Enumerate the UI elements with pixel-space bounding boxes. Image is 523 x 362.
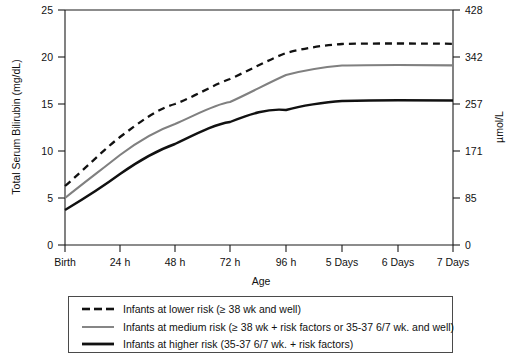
y2-tick-label-171: 171 bbox=[465, 145, 483, 157]
y-axis-right-ticks bbox=[453, 10, 460, 245]
x-tick-label-48h: 48 h bbox=[165, 256, 186, 268]
y2-tick-label-257: 257 bbox=[465, 98, 483, 110]
y-axis-left-ticks bbox=[58, 10, 65, 245]
x-tick-label-5days: 5 Days bbox=[326, 256, 359, 268]
x-tick-label-birth: Birth bbox=[54, 256, 76, 268]
x-axis-title: Age bbox=[252, 275, 271, 287]
series-group bbox=[65, 44, 453, 211]
y-tick-label-0: 0 bbox=[47, 239, 53, 251]
y-axis-left-labels: 25 20 15 10 5 0 bbox=[41, 4, 53, 251]
x-tick-label-72h: 72 h bbox=[220, 256, 241, 268]
y-axis-right-labels: 428 342 257 171 85 0 bbox=[465, 4, 483, 251]
bilirubin-nomogram-figure: 25 20 15 10 5 0 428 342 257 171 85 0 bbox=[0, 0, 523, 362]
plot-frame bbox=[65, 10, 453, 245]
x-tick-label-24h: 24 h bbox=[110, 256, 131, 268]
y2-tick-label-342: 342 bbox=[465, 51, 483, 63]
y-tick-label-10: 10 bbox=[41, 145, 53, 157]
y2-tick-label-428: 428 bbox=[465, 4, 483, 16]
y-tick-label-25: 25 bbox=[41, 4, 53, 16]
x-axis-labels: Birth 24 h 48 h 72 h 96 h 5 Days 6 Days … bbox=[54, 256, 469, 268]
x-tick-label-7days: 7 Days bbox=[437, 256, 470, 268]
y-axis-title: Total Serum Bilirubin (mg/dL) bbox=[10, 59, 22, 194]
legend-label-lower-risk: Infants at lower risk (≥ 38 wk and well) bbox=[123, 303, 301, 315]
legend-label-higher-risk: Infants at higher risk (35-37 6/7 wk. + … bbox=[123, 338, 353, 350]
x-axis-ticks bbox=[65, 245, 453, 252]
series-line-medium-risk bbox=[65, 65, 453, 198]
y2-tick-label-0: 0 bbox=[465, 239, 471, 251]
y2-axis-title: µmol/L bbox=[493, 111, 505, 143]
y-tick-label-20: 20 bbox=[41, 51, 53, 63]
legend: Infants at lower risk (≥ 38 wk and well)… bbox=[69, 297, 455, 353]
y2-tick-label-85: 85 bbox=[465, 192, 477, 204]
chart-canvas: 25 20 15 10 5 0 428 342 257 171 85 0 bbox=[0, 0, 523, 362]
y-tick-label-15: 15 bbox=[41, 98, 53, 110]
series-line-higher-risk bbox=[65, 100, 453, 210]
y-tick-label-5: 5 bbox=[47, 192, 53, 204]
x-tick-label-96h: 96 h bbox=[276, 256, 297, 268]
legend-label-medium-risk: Infants at medium risk (≥ 38 wk + risk f… bbox=[123, 321, 454, 333]
x-tick-label-6days: 6 Days bbox=[382, 256, 415, 268]
